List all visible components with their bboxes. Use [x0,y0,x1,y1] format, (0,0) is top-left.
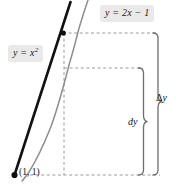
differential-figure: y = x2 y = 2x − 1 dy Δy (1, 1) [0,0,183,189]
delta-y-brace [153,33,162,175]
point-coordinate-label: (1, 1) [19,168,40,178]
tangent-label: y = 2x − 1 [100,5,154,22]
parabola-label-text: y = x [13,47,35,58]
tangent-point-marker [61,30,66,35]
parabola-curve [22,0,88,181]
dy-label: dy [128,117,137,127]
point-1-1-marker [11,172,17,178]
parabola-label: y = x2 [8,45,43,62]
dy-brace [139,68,148,175]
parabola-label-exponent: 2 [35,46,39,54]
delta-y-label: Δy [156,93,167,103]
delta-variable: y [162,92,166,103]
